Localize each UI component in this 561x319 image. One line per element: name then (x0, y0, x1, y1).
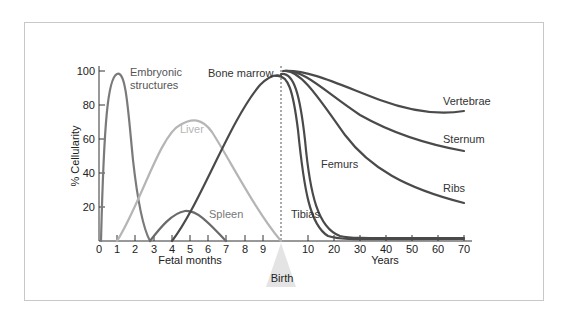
label-femurs: Femurs (321, 158, 359, 170)
x-tick-label: 2 (132, 243, 138, 255)
x-axis-title-fetal: Fetal months (158, 254, 222, 266)
label-embryonic-line2: structures (130, 79, 179, 91)
label-bone-marrow: Bone marrow (208, 67, 273, 79)
x-tick-label: 50 (406, 243, 418, 255)
label-spleen: Spleen (209, 208, 243, 220)
x-tick-label: 70 (458, 243, 470, 255)
label-tibias: Tibias (291, 208, 320, 220)
y-tick-label: 100 (77, 65, 95, 77)
curve-sternum (285, 71, 464, 151)
label-vertebrae: Vertebrae (443, 95, 491, 107)
x-tick-label: 3 (151, 243, 157, 255)
y-tick-label: 60 (83, 133, 95, 145)
x-ticks-fetal (117, 235, 263, 241)
y-tick-label: 80 (83, 99, 95, 111)
x-tick-label: 8 (242, 243, 248, 255)
y-axis-title: % Cellularity (69, 125, 81, 187)
x-tick-label: 9 (260, 243, 266, 255)
label-ribs: Ribs (443, 182, 466, 194)
x-tick-label: 1 (114, 243, 120, 255)
label-liver: Liver (180, 123, 204, 135)
x-axis-title-years: Years (371, 254, 399, 266)
birth-label: Birth (271, 272, 294, 284)
chart-svg: Birth 100 80 60 40 20 % Cellularity 0 1 … (0, 0, 561, 319)
y-tick-label: 20 (83, 201, 95, 213)
y-tick-label: 40 (83, 167, 95, 179)
x-tick-label: 0 (96, 243, 102, 255)
x-tick-label: 7 (223, 243, 229, 255)
curve-embryonic-structures (101, 74, 150, 241)
label-embryonic-line1: Embryonic (130, 66, 182, 78)
curve-vertebrae (285, 71, 464, 113)
x-tick-label: 30 (354, 243, 366, 255)
x-tick-label: 10 (302, 243, 314, 255)
label-sternum: Sternum (443, 133, 485, 145)
curve-liver (117, 120, 281, 241)
x-tick-label: 20 (328, 243, 340, 255)
x-tick-label: 60 (432, 243, 444, 255)
